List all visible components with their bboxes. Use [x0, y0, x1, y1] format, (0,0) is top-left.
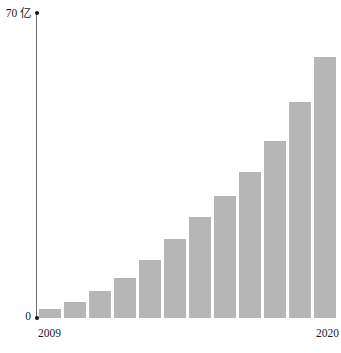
- bar-2015: [189, 217, 211, 318]
- bar-chart: 70 亿 0 2009 2020: [0, 0, 341, 353]
- bar-2012: [114, 278, 136, 318]
- bar-2011: [89, 291, 111, 318]
- y-axis-max-label: 70 亿: [0, 7, 31, 19]
- y-axis-zero-label: 0: [0, 310, 31, 322]
- bar-2010: [64, 302, 86, 318]
- bar-2016: [214, 196, 236, 318]
- bar-2017: [239, 172, 261, 318]
- bar-series: [37, 13, 337, 318]
- plot-area: [37, 13, 337, 318]
- bar-2009: [39, 309, 61, 318]
- bar-2013: [139, 260, 161, 318]
- bar-2014: [164, 239, 186, 318]
- bar-2020: [314, 57, 336, 318]
- x-axis-last-label: 2020: [316, 327, 339, 339]
- bar-2018: [264, 141, 286, 318]
- bar-2019: [289, 102, 311, 318]
- x-axis-first-label: 2009: [38, 327, 61, 339]
